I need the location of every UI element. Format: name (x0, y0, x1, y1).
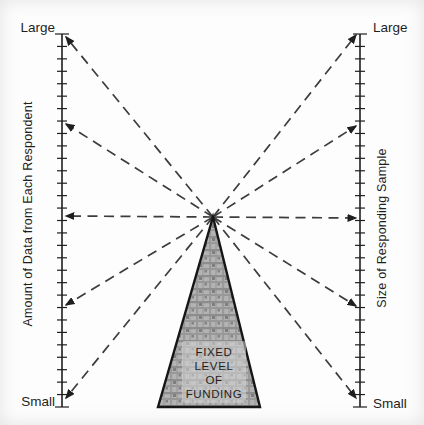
right-axis-top-label: Large (373, 20, 408, 35)
tradeoff-arrow-left (66, 124, 213, 217)
right-axis: Large Small Size of Responding Sample (353, 20, 408, 411)
left-axis: Large Small Amount of Data from Each Res… (20, 20, 69, 409)
left-axis-bottom-label: Small (21, 394, 55, 409)
right-axis-bottom-label: Small (373, 396, 407, 411)
tradeoff-arrow-left (66, 37, 213, 217)
tradeoff-arrow-right (213, 217, 356, 218)
diagram-canvas: FIXED LEVEL OF FUNDING Large Small Amoun… (0, 0, 424, 425)
tradeoff-arrow-right (213, 217, 356, 306)
triangle-label-line-2: LEVEL (195, 360, 234, 372)
tradeoff-arrow-right (213, 35, 356, 217)
triangle-label-line-3: OF (205, 374, 222, 386)
tradeoff-arrow-left (66, 216, 213, 217)
left-axis-title: Amount of Data from Each Respondent (21, 101, 35, 327)
triangle-label-line-4: FUNDING (186, 388, 243, 400)
tradeoff-arrow-right (213, 126, 356, 217)
right-axis-title: Size of Responding Sample (375, 148, 389, 307)
left-axis-top-label: Large (20, 20, 55, 35)
tradeoff-diagram: FIXED LEVEL OF FUNDING Large Small Amoun… (0, 0, 424, 425)
triangle-label-line-1: FIXED (196, 346, 233, 358)
